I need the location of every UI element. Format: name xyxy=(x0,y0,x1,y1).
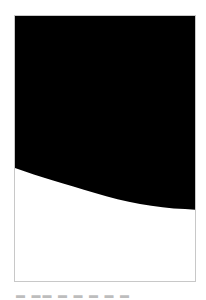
image-caption: ▬ ▬▬ ▬ ▬ ▬ ▬ ▬ xyxy=(16,290,131,300)
black-curve-shape xyxy=(15,16,196,282)
image-frame xyxy=(14,15,196,282)
